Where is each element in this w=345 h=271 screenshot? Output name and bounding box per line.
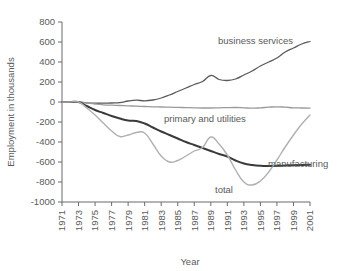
series-label-total: total <box>215 184 233 195</box>
x-tick-label: 1985 <box>172 210 183 231</box>
x-tick-label: 1981 <box>139 210 150 231</box>
y-tick-label: 0 <box>50 96 55 107</box>
y-axis: 8006004002000-200-400-600-800-1000 <box>31 16 62 207</box>
y-tick-label: -200 <box>36 116 55 127</box>
x-tick-label: 1993 <box>238 210 249 231</box>
x-axis: 1971197319751977197919811983198519871989… <box>56 202 315 231</box>
x-tick-label: 2001 <box>304 210 315 231</box>
y-tick-label: -400 <box>36 136 55 147</box>
y-tick-label: -600 <box>36 156 55 167</box>
chart-figure: 8006004002000-200-400-600-800-1000 19711… <box>0 0 345 271</box>
series-line-business-services <box>62 42 310 104</box>
x-tick-label: 1977 <box>106 210 117 231</box>
x-tick-label: 1975 <box>89 210 100 231</box>
y-tick-label: 400 <box>39 56 55 67</box>
y-tick-label: -1000 <box>31 196 55 207</box>
y-tick-label: 600 <box>39 36 55 47</box>
x-tick-label: 1983 <box>156 210 167 231</box>
x-tick-label: 1989 <box>205 210 216 231</box>
series-label-business-services: business services <box>218 35 293 46</box>
x-tick-label: 1971 <box>56 210 67 231</box>
x-tick-label: 1999 <box>288 210 299 231</box>
x-tick-label: 1991 <box>222 210 233 231</box>
series-label-primary-and-utilities: primary and utilities <box>164 113 246 124</box>
x-tick-label: 1995 <box>255 210 266 231</box>
y-tick-label: -800 <box>36 176 55 187</box>
y-tick-label: 200 <box>39 76 55 87</box>
line-chart: 8006004002000-200-400-600-800-1000 19711… <box>0 0 345 271</box>
y-tick-label: 800 <box>39 16 55 27</box>
series-label-manufacturing: manufacturing <box>268 158 328 169</box>
x-tick-label: 1987 <box>189 210 200 231</box>
y-axis-title: Employment in thousands <box>5 57 16 167</box>
series-annotations: business servicesprimary and utilitiesma… <box>164 35 328 195</box>
x-tick-label: 1997 <box>271 210 282 231</box>
x-tick-label: 1973 <box>73 210 84 231</box>
x-tick-label: 1979 <box>123 210 134 231</box>
x-axis-title: Year <box>180 256 199 267</box>
